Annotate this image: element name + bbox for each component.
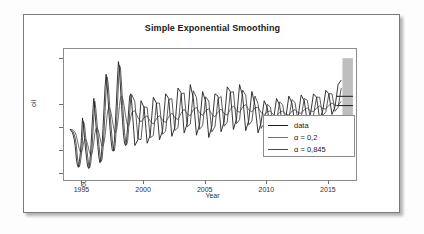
x-tick-mark [143, 180, 144, 184]
legend-label-alpha-0-2: α = 0,2 [294, 133, 317, 142]
chart-legend: data α = 0,2 α = 0,845 [263, 115, 355, 157]
legend-item-alpha-0-845: α = 0,845 [268, 143, 350, 155]
legend-swatch-alpha-0-845 [268, 149, 288, 150]
y-axis-title: oil [30, 100, 37, 107]
legend-swatch-data [268, 125, 288, 126]
x-tick-mark [81, 180, 82, 184]
legend-item-alpha-0-2: α = 0,2 [268, 131, 350, 143]
legend-swatch-alpha-0-2 [268, 137, 288, 138]
screenshot-canvas: Simple Exponential Smoothing oil 6000700… [0, 0, 424, 234]
chart-title: Simple Exponential Smoothing [24, 23, 401, 33]
legend-label-data: data [294, 121, 309, 130]
x-tick-mark [205, 180, 206, 184]
x-tick-mark [266, 180, 267, 184]
legend-item-data: data [268, 119, 350, 131]
x-tick-mark [328, 180, 329, 184]
legend-label-alpha-0-845: α = 0,845 [294, 145, 326, 154]
chart-card: Simple Exponential Smoothing oil 6000700… [23, 14, 400, 213]
x-axis-title: Year [24, 192, 401, 199]
